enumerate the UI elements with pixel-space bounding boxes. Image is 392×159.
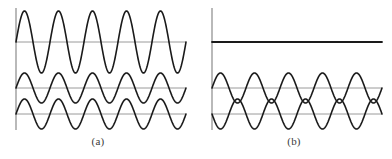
panel-b-svg bbox=[196, 0, 392, 136]
panel-b-plot bbox=[196, 0, 392, 136]
panel-a-svg bbox=[0, 0, 196, 136]
panel-b: (b) bbox=[196, 0, 392, 159]
panel-a: (a) bbox=[0, 0, 196, 159]
panel-a-caption: (a) bbox=[0, 134, 196, 148]
panel-b-caption: (b) bbox=[196, 134, 392, 148]
wave-interference-figure: (a) (b) bbox=[0, 0, 392, 159]
panel-a-plot bbox=[0, 0, 196, 136]
